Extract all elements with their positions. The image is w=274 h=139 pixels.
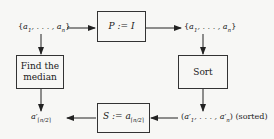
find-median-line2: median [23,72,57,83]
permute-box-label: P := I [109,21,135,32]
input-set-label: {a1, . . . , an} [18,22,70,33]
select-box-label: S := a⌈n/2⌉ [103,111,144,126]
sorted-seq-label: (a′1, . . . , a′n) (sorted) [181,112,268,123]
find-median-line1: Find the [21,61,59,72]
output-set-label: {a1, . . . , an} [184,22,236,33]
sort-box-label: Sort [193,67,213,78]
median-result-label: a′⌈n/2⌉ [31,112,51,123]
sorted-suffix: (sorted) [235,112,267,121]
select-box: S := a⌈n/2⌉ [97,103,150,133]
permute-box: P := I [97,11,146,42]
find-median-box: Find the median [16,55,64,89]
sort-box: Sort [178,55,228,89]
